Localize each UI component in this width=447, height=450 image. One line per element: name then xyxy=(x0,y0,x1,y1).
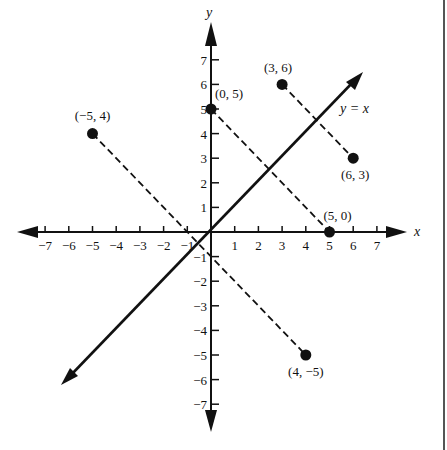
x-tick-label: −2 xyxy=(157,238,171,253)
point-marker xyxy=(206,104,217,115)
x-tick-label: 4 xyxy=(303,238,310,253)
x-tick-label: −7 xyxy=(38,238,52,253)
y-tick-label: −4 xyxy=(193,323,207,338)
point-marker xyxy=(277,79,288,90)
point-label: (4, −5) xyxy=(288,364,324,379)
plot-canvas: x y −7−6−5−4−3−2−11234567 −7−6−5−4−3−2−1… xyxy=(0,0,447,450)
x-tick-label: 3 xyxy=(279,238,286,253)
x-tick-label: −5 xyxy=(86,238,100,253)
x-tick-label: −6 xyxy=(62,238,76,253)
point-label: (3, 6) xyxy=(264,60,292,75)
y-tick-label: 1 xyxy=(201,200,208,215)
y-tick-label: 7 xyxy=(201,53,208,68)
x-axis-name: x xyxy=(413,224,421,239)
dashed-reflection-segment xyxy=(211,109,330,232)
y-tick-label: 3 xyxy=(201,151,208,166)
line-label: y = x xyxy=(338,101,370,116)
y-tick-label: −2 xyxy=(193,274,207,289)
coordinate-plane-figure: x y −7−6−5−4−3−2−11234567 −7−6−5−4−3−2−1… xyxy=(0,0,447,450)
x-axis-right-arrow-icon xyxy=(386,226,407,238)
y-tick-label: −3 xyxy=(193,299,207,314)
point-label: (−5, 4) xyxy=(75,108,111,123)
y-axis-down-arrow-icon xyxy=(205,410,217,432)
x-tick-label: −4 xyxy=(109,238,123,253)
point-marker xyxy=(348,153,359,164)
x-tick-label: −3 xyxy=(133,238,147,253)
page-border xyxy=(443,0,445,450)
y-axis-up-arrow-icon xyxy=(205,22,217,46)
y-axis-name: y xyxy=(204,5,213,20)
y-tick-label: 6 xyxy=(201,77,208,92)
x-tick-label: 6 xyxy=(350,238,357,253)
x-tick-label: 7 xyxy=(374,238,381,253)
y-tick-label: −5 xyxy=(193,348,207,363)
point-label: (0, 5) xyxy=(215,86,243,101)
point-marker xyxy=(300,350,311,361)
dashed-reflection-segment xyxy=(282,84,353,158)
x-tick-label: 1 xyxy=(231,238,238,253)
point-marker xyxy=(87,128,98,139)
point-label: (5, 0) xyxy=(323,208,351,223)
point-marker xyxy=(324,227,335,238)
dashed-reflection-segment xyxy=(93,134,306,355)
y-tick-label: 4 xyxy=(201,127,208,142)
y-tick-label: −6 xyxy=(193,373,207,388)
dashed-segments xyxy=(93,84,354,355)
y-tick-label: −7 xyxy=(193,397,207,412)
x-axis-left-arrow-icon xyxy=(17,226,38,238)
y-tick-label: −1 xyxy=(193,250,207,265)
x-tick-label: 5 xyxy=(326,238,333,253)
x-tick-label: 2 xyxy=(255,238,262,253)
y-tick-label: 2 xyxy=(201,176,208,191)
point-label: (6, 3) xyxy=(341,167,369,182)
